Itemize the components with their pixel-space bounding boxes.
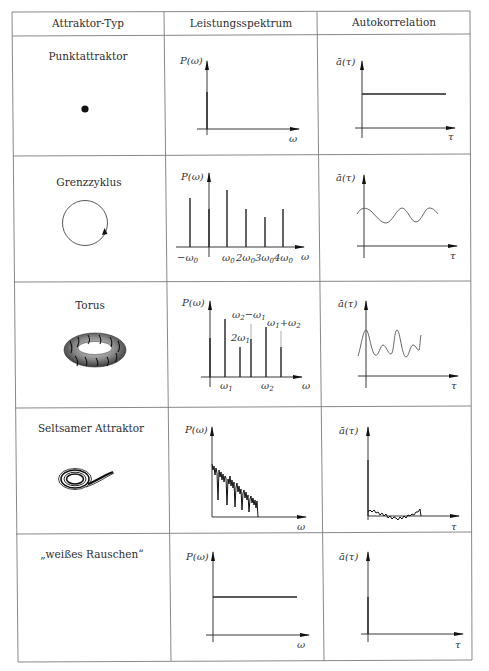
autocorr-ylabel: ā(τ) bbox=[338, 299, 357, 309]
spectrum-point bbox=[197, 61, 299, 135]
spectrum-xlabel: ω bbox=[301, 252, 309, 262]
autocorr-xlabel: τ bbox=[450, 251, 456, 261]
spectrum-ylabel: P(ω) bbox=[180, 56, 203, 66]
tick-omega2: ω2 bbox=[261, 381, 274, 393]
spectrum-xlabel: ω bbox=[297, 522, 305, 532]
tick-omega1: ω1 bbox=[220, 381, 233, 393]
tick-2omega0: 2ω0 bbox=[236, 253, 255, 265]
autocorr-xlabel: τ bbox=[451, 522, 457, 532]
autocorr-limit-cycle bbox=[357, 175, 457, 258]
autocorr-torus bbox=[358, 301, 458, 388]
spectrum-xlabel: ω bbox=[302, 381, 310, 391]
spectrum-ylabel: P(ω) bbox=[182, 298, 205, 308]
spectrum-limit-cycle bbox=[176, 173, 304, 257]
annotation-omega1-plus-omega2: ω1+ω2 bbox=[267, 318, 301, 330]
tick-omega0: ω0 bbox=[222, 253, 235, 265]
autocorr-ylabel: ā(τ) bbox=[339, 426, 358, 436]
annotation-omega2-minus-omega1: ω2−ω1 bbox=[232, 310, 266, 322]
autocorr-ylabel: ā(τ) bbox=[339, 552, 358, 562]
spectrum-ylabel: P(ω) bbox=[181, 172, 204, 182]
spectrum-white-noise bbox=[206, 552, 309, 642]
autocorr-point bbox=[355, 61, 455, 138]
autocorr-white-noise bbox=[361, 552, 463, 642]
spectrum-strange bbox=[212, 427, 306, 517]
autocorr-ylabel: ā(τ) bbox=[336, 57, 355, 67]
autocorr-xlabel: τ bbox=[455, 640, 461, 650]
autocorr-strange bbox=[368, 427, 459, 520]
tick-3omega0: 3ω0 bbox=[255, 253, 274, 265]
tick-4omega0: 4ω0 bbox=[274, 253, 293, 265]
attractor-table: Attraktor-Typ Leistungsspektrum Autokorr… bbox=[0, 0, 489, 671]
spectrum-ylabel: P(ω) bbox=[185, 425, 208, 435]
autocorr-xlabel: τ bbox=[451, 381, 457, 391]
annotation-2omega1: 2ω1 bbox=[231, 333, 250, 345]
spectrum-xlabel: ω bbox=[297, 640, 305, 650]
tick-minus-omega0: −ω0 bbox=[177, 253, 198, 265]
spectrum-ylabel: P(ω) bbox=[186, 552, 209, 562]
autocorr-ylabel: ā(τ) bbox=[336, 173, 355, 183]
spectrum-xlabel: ω bbox=[289, 134, 297, 144]
autocorr-xlabel: τ bbox=[448, 132, 454, 142]
